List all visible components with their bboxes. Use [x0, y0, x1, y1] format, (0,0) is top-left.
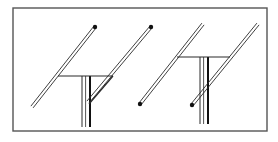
rod-edge — [87, 26, 150, 101]
diagram-frame — [13, 8, 267, 131]
rod-edge — [141, 25, 204, 105]
rod-edge — [193, 25, 259, 106]
rod-tip-dot — [190, 103, 194, 107]
right-configuration — [138, 23, 259, 124]
rod-tip-dot — [138, 102, 142, 106]
rod-edge — [33, 28, 96, 108]
left-configuration — [31, 25, 153, 127]
antenna-diagram — [0, 0, 278, 142]
rod-edge — [31, 26, 94, 106]
brace — [89, 76, 113, 104]
antenna-rod — [87, 25, 153, 103]
rod-tip-dot — [93, 25, 97, 29]
figures-group — [31, 23, 259, 127]
diagram-canvas — [0, 0, 278, 142]
rod-edge — [89, 28, 152, 103]
rod-edge — [191, 23, 257, 104]
rod-edge — [139, 23, 202, 103]
antenna-rod — [31, 25, 97, 108]
antenna-rod — [138, 23, 204, 106]
rod-tip-dot — [149, 25, 153, 29]
